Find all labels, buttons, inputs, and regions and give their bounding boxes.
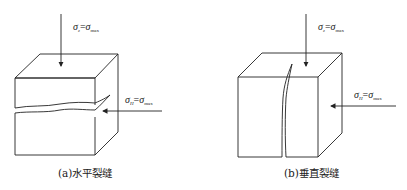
horizontal-crack — [15, 95, 110, 113]
vertical-stress-label-b: σz=σmax — [318, 21, 345, 33]
panel-a: σz=σmax σH=σmax (a)水平裂缝 — [15, 14, 162, 179]
caption-b: (b)垂直裂缝 — [284, 167, 340, 179]
horizontal-stress-label-b: σH=σmax — [354, 89, 382, 101]
caption-a: (a)水平裂缝 — [58, 167, 113, 179]
vertical-crack — [282, 64, 292, 157]
vertical-stress-label-a: σz=σmax — [73, 21, 100, 33]
block-top-face — [15, 54, 118, 78]
fracture-orientation-diagram: σz=σmax σH=σmax (a)水平裂缝 σz=σmax — [0, 0, 407, 190]
panel-b: σz=σmax σH=σmax (b)垂直裂缝 — [238, 14, 396, 179]
rock-block-a — [15, 54, 118, 155]
horizontal-stress-label-a: σH=σmax — [125, 94, 153, 106]
